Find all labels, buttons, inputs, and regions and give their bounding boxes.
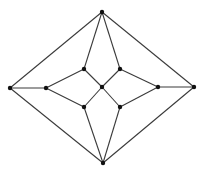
node-top xyxy=(100,10,104,14)
edge-center-upper-left xyxy=(84,69,102,87)
edge-inner-left-upper-left xyxy=(46,69,84,88)
edge-bottom-lower-right xyxy=(103,107,120,163)
edge-center-lower-left xyxy=(84,87,102,107)
edge-bottom-lower-left xyxy=(84,107,103,163)
node-upper-left xyxy=(82,67,86,71)
edge-center-lower-right xyxy=(102,87,120,107)
node-center xyxy=(100,85,104,89)
graph-diagram xyxy=(0,0,203,172)
edge-top-upper-left xyxy=(84,12,102,69)
node-lower-right xyxy=(118,105,122,109)
edge-top-left xyxy=(10,12,102,88)
edge-inner-left-lower-left xyxy=(46,88,84,107)
edge-center-upper-right xyxy=(102,69,120,87)
node-left xyxy=(8,86,12,90)
node-right xyxy=(192,85,196,89)
node-inner-right xyxy=(156,85,160,89)
node-bottom xyxy=(101,161,105,165)
edge-bottom-left xyxy=(10,88,103,163)
edge-inner-right-upper-right xyxy=(120,69,158,87)
edge-bottom-right xyxy=(103,87,194,163)
edge-inner-right-lower-right xyxy=(120,87,158,107)
edge-top-right xyxy=(102,12,194,87)
node-upper-right xyxy=(118,67,122,71)
node-lower-left xyxy=(82,105,86,109)
node-inner-left xyxy=(44,86,48,90)
edge-top-upper-right xyxy=(102,12,120,69)
